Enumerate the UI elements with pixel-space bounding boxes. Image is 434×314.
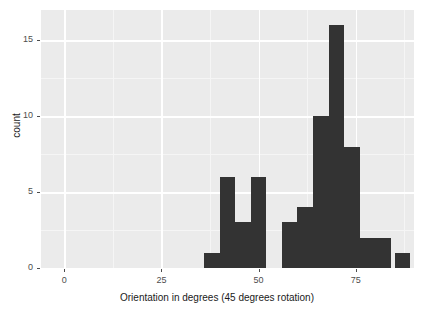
histogram-bar xyxy=(360,238,376,268)
x-tick-label: 0 xyxy=(49,276,79,285)
x-tick-mark xyxy=(161,269,162,272)
histogram-bar xyxy=(313,116,329,268)
chart-root: 051015 0255075 Orientation in degrees (4… xyxy=(0,0,434,314)
histogram-bar xyxy=(204,253,220,268)
gridline-major-horizontal xyxy=(41,116,414,117)
histogram-bar xyxy=(329,25,345,268)
plot-panel xyxy=(41,10,414,268)
gridline-minor-horizontal xyxy=(41,78,414,79)
gridline-major-vertical xyxy=(161,10,162,268)
histogram-bar xyxy=(395,253,411,268)
y-axis-title: count xyxy=(11,66,22,186)
x-tick-mark xyxy=(259,269,260,272)
x-tick-mark xyxy=(356,269,357,272)
y-tick-label: 15 xyxy=(7,35,33,44)
x-tick-label: 50 xyxy=(244,276,274,285)
x-tick-label: 25 xyxy=(146,276,176,285)
histogram-bar xyxy=(251,177,267,268)
gridline-major-horizontal xyxy=(41,40,414,41)
histogram-bar xyxy=(235,222,251,268)
histogram-bar xyxy=(220,177,236,268)
gridline-major-vertical xyxy=(64,10,65,268)
x-tick-label: 75 xyxy=(341,276,371,285)
histogram-bar xyxy=(297,207,313,268)
y-tick-mark xyxy=(37,40,40,41)
y-tick-mark xyxy=(37,116,40,117)
x-tick-mark xyxy=(64,269,65,272)
histogram-bar xyxy=(375,238,391,268)
histogram-bar xyxy=(282,222,298,268)
y-tick-label: 5 xyxy=(7,187,33,196)
histogram-bar xyxy=(344,147,360,268)
y-tick-mark xyxy=(37,192,40,193)
y-tick-mark xyxy=(37,268,40,269)
x-axis-title: Orientation in degrees (45 degrees rotat… xyxy=(0,292,434,303)
y-tick-label: 0 xyxy=(7,263,33,272)
